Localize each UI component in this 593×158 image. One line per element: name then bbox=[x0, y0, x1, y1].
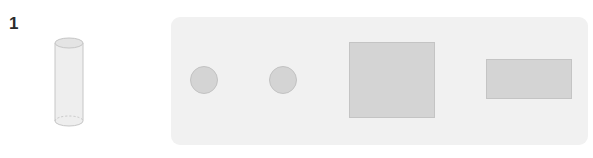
cylinder-icon bbox=[52, 36, 86, 128]
shapes-panel bbox=[171, 17, 588, 145]
square bbox=[349, 42, 435, 118]
circle-2 bbox=[269, 66, 297, 94]
rectangle bbox=[486, 59, 572, 99]
figure-number: 1 bbox=[9, 14, 18, 34]
circle-1 bbox=[190, 66, 218, 94]
